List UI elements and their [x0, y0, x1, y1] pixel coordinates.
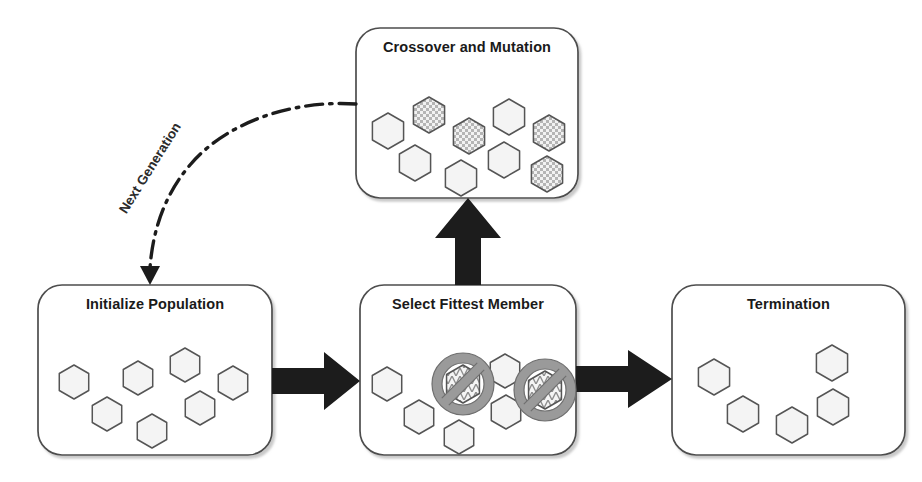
hexagon-plain [59, 365, 88, 399]
diagram-canvas: Initialize Population Select Fittest Mem… [0, 0, 922, 482]
hexagon-plain [444, 420, 473, 454]
node-title-crossover-and-mutation: Crossover and Mutation [356, 39, 578, 55]
hexagon-plain [170, 348, 199, 382]
hexagon-plain [185, 391, 214, 425]
node-title-termination: Termination [672, 296, 905, 312]
arrowhead-crossover-to-init [140, 266, 160, 285]
hexagon-plain [218, 366, 247, 400]
arrow-init-to-select [272, 352, 360, 410]
arrow-select-to-crossover [435, 198, 501, 285]
arrow-select-to-termination [576, 350, 672, 408]
node-title-initialize-population: Initialize Population [38, 296, 272, 312]
flowchart-svg [0, 0, 922, 482]
prohibition-icon [514, 359, 576, 421]
hexagon-plain [92, 397, 121, 431]
hexagon-plain [123, 361, 152, 395]
hexagon-plain [137, 414, 166, 448]
node-title-select-fittest-member: Select Fittest Member [360, 296, 576, 312]
hexagon-plain [372, 367, 401, 401]
prohibition-icon [432, 353, 494, 415]
hexagon-plain [404, 400, 433, 434]
